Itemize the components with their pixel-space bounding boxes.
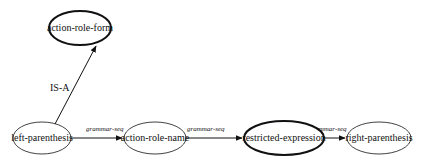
edge-label-isa: IS-A xyxy=(50,82,70,93)
edge-label-seq-1: grammar-seq xyxy=(86,125,124,133)
node-left-parenthesis: left-parenthesis xyxy=(11,122,73,154)
node-label: left-parenthesis xyxy=(11,132,73,143)
node-restricted-expression: restricted-expression xyxy=(242,121,325,155)
edge-seq-1: grammar-seq xyxy=(71,125,124,138)
edge-label-seq-2: grammar-seq xyxy=(187,125,225,133)
node-label: action-role-form xyxy=(47,22,113,33)
node-action-role-name: action-role-name xyxy=(121,122,190,154)
node-action-role-form: action-role-form xyxy=(47,11,113,45)
node-label: right-parenthesis xyxy=(345,132,412,143)
node-right-parenthesis: right-parenthesis xyxy=(345,122,412,154)
node-label: restricted-expression xyxy=(242,132,325,143)
edge-seq-2: grammar-seq xyxy=(186,125,242,138)
edge-isa: IS-A xyxy=(50,46,96,124)
diagram-svg: IS-A grammar-seq grammar-seq grammar-seq… xyxy=(0,0,435,167)
node-label: action-role-name xyxy=(121,132,190,143)
diagram-canvas: IS-A grammar-seq grammar-seq grammar-seq… xyxy=(0,0,435,167)
